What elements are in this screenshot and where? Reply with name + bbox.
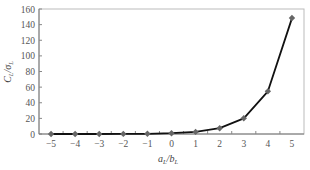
y-tick-label: 100 [21,51,36,61]
x-tick-label: 4 [265,139,270,149]
y-tick-label: 140 [21,20,36,30]
y-tick-label: 0 [30,130,35,140]
y-tick-label: 120 [21,36,36,46]
line-chart: 020406080100120140160 −5−4−3−2−1012345 C… [0,0,310,170]
x-tick-label: −5 [46,139,56,149]
y-tick-label: 20 [26,114,36,124]
x-tick-label: 5 [290,139,295,149]
x-tick-label: 1 [193,139,198,149]
data-point-marker [72,131,78,137]
x-tick-label: −3 [94,139,104,149]
y-tick-label: 80 [26,67,36,77]
data-markers [48,15,295,137]
x-axis-title: aL/bL [158,153,178,165]
data-point-marker [216,125,222,131]
x-tick-label: −2 [118,139,128,149]
data-point-marker [120,131,126,137]
y-axis-title: CL/σL [2,61,14,83]
data-point-marker [144,131,150,137]
y-tick-label: 160 [21,5,36,15]
plot-frame [39,9,304,134]
data-point-marker [48,131,54,137]
data-line [51,18,292,134]
data-point-marker [96,131,102,137]
x-tick-label: 0 [169,139,174,149]
x-tick-label: 2 [217,139,222,149]
y-tick-label: 40 [26,98,36,108]
y-axis: 020406080100120140160 [21,5,42,140]
x-tick-label: −1 [142,139,152,149]
data-point-marker [168,130,174,136]
y-tick-label: 60 [26,83,36,93]
x-tick-label: −4 [70,139,80,149]
x-tick-label: 3 [241,139,246,149]
data-point-marker [289,15,295,21]
